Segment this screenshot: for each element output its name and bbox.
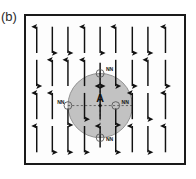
spin-row-1 xyxy=(37,27,166,53)
panel-label: (b) xyxy=(1,10,17,23)
cluster-center-dot xyxy=(99,104,102,107)
nn-label-south: NN xyxy=(106,136,114,142)
cluster-label-a: A xyxy=(96,92,104,104)
nn-label-west: NN xyxy=(57,99,65,105)
nn-label-north: NN xyxy=(106,66,114,72)
lattice-frame: NN NN NN NN A xyxy=(24,14,186,165)
figure-panel: (b) xyxy=(0,0,196,179)
lattice-svg: NN NN NN NN A xyxy=(26,16,184,163)
nn-label-east: NN xyxy=(122,99,130,105)
